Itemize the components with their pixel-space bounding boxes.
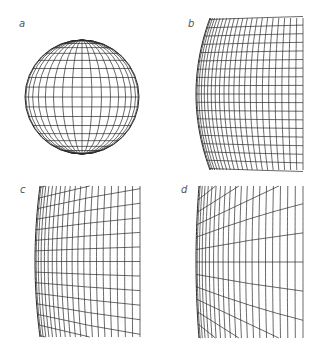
panel-a-globe [25,40,139,154]
panel-b-limb [196,16,303,171]
panel-d-limb [196,186,303,338]
panel-c-limb [35,186,140,337]
graticule-drawing [0,0,319,355]
